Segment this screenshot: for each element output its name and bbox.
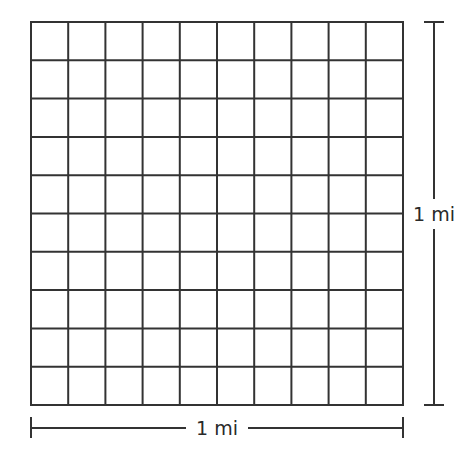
- width-label: 1 mi: [196, 417, 238, 439]
- grid-diagram: 1 mi 1 mi: [0, 0, 474, 451]
- square-grid: [31, 22, 403, 405]
- height-label: 1 mi: [413, 203, 455, 225]
